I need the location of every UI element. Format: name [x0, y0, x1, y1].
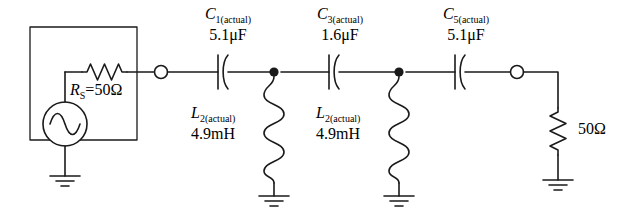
load-resistor-symbol — [550, 108, 566, 155]
capacitor-c5 — [455, 55, 465, 89]
inductor-l2-second — [389, 77, 409, 184]
c3-value: 1.6μF — [302, 27, 378, 44]
c5-symbol: C — [443, 5, 454, 22]
load-resistor-label: 50Ω — [578, 121, 606, 138]
rs-value: 50Ω — [94, 81, 122, 98]
c1-symbol: C — [205, 5, 216, 22]
ground-source — [50, 176, 80, 186]
c5-value: 5.1μF — [428, 27, 504, 44]
source-resistor-label: RS=50Ω — [70, 82, 122, 102]
output-open-terminal — [511, 66, 524, 79]
l2a-subscript: 2(actual) — [200, 113, 236, 124]
circuit-diagram: RS=50Ω C1(actual) 5.1μF C3(actual) 1.6μF… — [0, 0, 628, 213]
wire-terminal-to-load — [524, 72, 559, 108]
capacitor-c3 — [329, 55, 339, 89]
l2b-symbol: L — [316, 104, 325, 121]
ground-inductor-2 — [384, 196, 414, 206]
load-value: 50Ω — [578, 120, 606, 137]
ground-inductor-1 — [259, 196, 289, 206]
junction-node-2 — [394, 67, 403, 76]
c3-subscript: 3(actual) — [328, 14, 364, 25]
capacitor-c5-label: C5(actual) 5.1μF — [428, 6, 504, 43]
inductor-l2-second-label: L2(actual) 4.9mH — [316, 105, 360, 142]
inductor-l2-first — [264, 77, 284, 184]
c1-value: 5.1μF — [190, 27, 266, 44]
l2b-value: 4.9mH — [316, 126, 360, 143]
rs-symbol: R — [70, 81, 80, 98]
c1-subscript: 1(actual) — [216, 14, 252, 25]
junction-node-1 — [269, 67, 278, 76]
input-open-terminal — [155, 66, 168, 79]
l2a-symbol: L — [191, 104, 200, 121]
c5-subscript: 5(actual) — [454, 14, 490, 25]
inductor-l2-first-label: L2(actual) 4.9mH — [191, 105, 235, 142]
l2a-value: 4.9mH — [191, 126, 235, 143]
ground-load — [543, 180, 573, 190]
l2b-subscript: 2(actual) — [325, 113, 361, 124]
capacitor-c3-label: C3(actual) 1.6μF — [302, 6, 378, 43]
capacitor-c1 — [218, 55, 228, 89]
capacitor-c1-label: C1(actual) 5.1μF — [190, 6, 266, 43]
c3-symbol: C — [317, 5, 328, 22]
